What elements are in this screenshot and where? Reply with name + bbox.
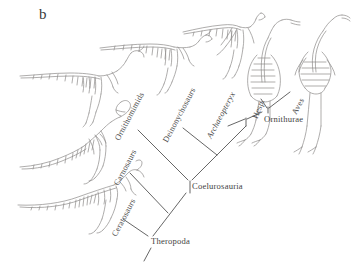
node-label-ornithurae: Ornithurae — [264, 114, 303, 124]
branch-carnosaurs — [130, 173, 168, 213]
node-label-theropoda: Theropoda — [151, 236, 190, 246]
branch-archaeopteryx — [228, 119, 245, 126]
node-label-coelurosauria: Coelurosauria — [192, 181, 243, 191]
branch-root-stem — [144, 248, 151, 261]
cladogram-branches — [0, 0, 357, 264]
branch-ceratosaurs — [123, 219, 148, 236]
branch-coelurosauria-upper — [192, 126, 246, 180]
cladogram-figure: b — [0, 0, 357, 264]
branch-theropoda-upper — [153, 193, 186, 236]
branch-aves — [269, 92, 290, 108]
